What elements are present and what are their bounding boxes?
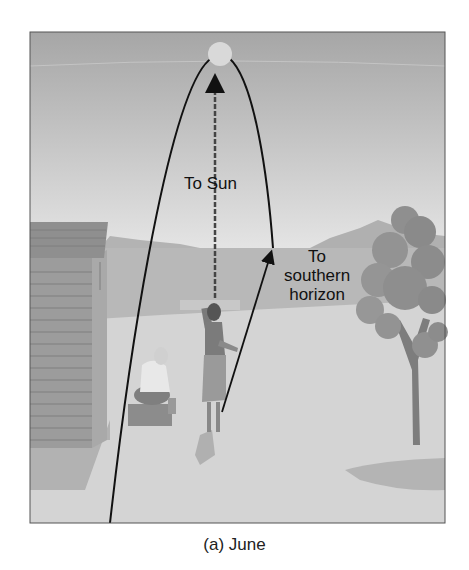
sky — [30, 32, 445, 248]
label-to-sun: To Sun — [184, 174, 237, 193]
label-line: To — [284, 247, 350, 266]
sun-path-diagram — [0, 0, 469, 570]
label-to-southern-horizon: To southern horizon — [284, 247, 350, 304]
label-line: horizon — [284, 285, 350, 304]
label-line: southern — [284, 266, 350, 285]
beach-hut — [30, 222, 108, 448]
sun — [208, 42, 232, 66]
figure-caption: (a) June — [0, 535, 469, 555]
